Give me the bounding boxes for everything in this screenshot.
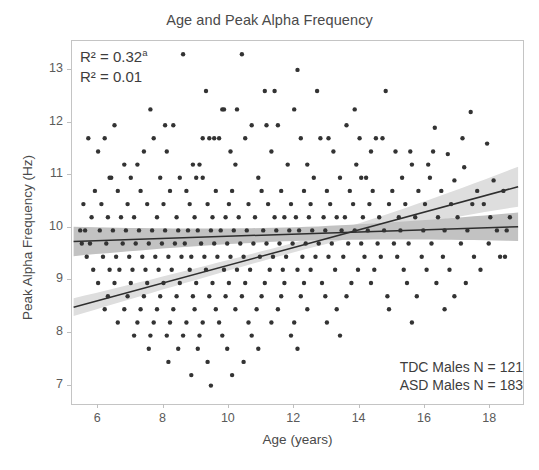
data-point xyxy=(325,189,329,193)
data-point xyxy=(469,110,473,114)
data-point xyxy=(127,255,131,259)
data-point xyxy=(282,281,286,285)
r2-tdc-text: R² = 0.32 xyxy=(80,48,142,65)
data-point xyxy=(215,255,219,259)
data-point xyxy=(158,176,162,180)
scatter-plot-svg xyxy=(72,41,523,404)
data-point xyxy=(335,307,339,311)
data-point xyxy=(152,136,156,140)
data-point xyxy=(269,320,273,324)
data-point xyxy=(156,268,160,272)
data-point xyxy=(243,136,247,140)
data-point xyxy=(259,189,263,193)
data-point xyxy=(205,360,209,364)
data-point xyxy=(153,255,157,259)
data-point xyxy=(420,255,424,259)
data-point xyxy=(305,307,309,311)
data-point xyxy=(148,107,152,111)
data-point xyxy=(286,162,290,166)
data-point xyxy=(402,268,406,272)
data-point xyxy=(184,189,188,193)
data-point xyxy=(271,255,275,259)
data-point xyxy=(295,68,299,72)
data-point xyxy=(86,136,90,140)
data-point xyxy=(279,294,283,298)
data-point xyxy=(442,307,446,311)
data-point xyxy=(408,149,412,153)
data-point xyxy=(132,333,136,337)
data-point xyxy=(475,189,479,193)
data-point xyxy=(204,268,208,272)
data-point xyxy=(498,255,502,259)
data-point xyxy=(197,162,201,166)
data-point xyxy=(138,189,142,193)
data-point xyxy=(487,241,491,245)
data-point xyxy=(323,294,327,298)
data-point xyxy=(274,228,278,232)
data-point xyxy=(505,228,509,232)
data-point xyxy=(107,268,111,272)
data-point xyxy=(403,202,407,206)
data-point xyxy=(482,202,486,206)
data-point xyxy=(189,373,193,377)
data-point xyxy=(503,255,507,259)
data-point xyxy=(464,281,468,285)
data-point xyxy=(138,307,142,311)
data-point xyxy=(491,178,495,182)
data-point xyxy=(98,228,102,232)
data-point xyxy=(96,149,100,153)
data-point xyxy=(323,228,327,232)
data-point xyxy=(173,241,177,245)
data-point xyxy=(101,255,105,259)
data-point xyxy=(142,149,146,153)
data-point xyxy=(103,136,107,140)
data-point xyxy=(351,202,355,206)
data-point xyxy=(305,162,309,166)
data-point xyxy=(410,162,414,166)
data-point xyxy=(147,241,151,245)
data-point xyxy=(143,268,147,272)
y-axis-label: Peak Alpha Frequency (Hz) xyxy=(20,155,35,320)
data-point xyxy=(121,241,125,245)
data-point xyxy=(80,241,84,245)
data-point xyxy=(369,149,373,153)
data-point xyxy=(250,333,254,337)
data-point xyxy=(276,123,280,127)
data-point xyxy=(210,281,214,285)
data-point xyxy=(165,333,169,337)
data-point xyxy=(382,228,386,232)
data-point xyxy=(362,255,366,259)
data-point xyxy=(294,215,298,219)
data-point xyxy=(250,123,254,127)
data-point xyxy=(384,89,388,93)
x-tick-label: 10 xyxy=(215,411,241,425)
x-axis-label: Age (years) xyxy=(71,432,524,447)
data-point xyxy=(447,268,451,272)
data-point xyxy=(89,215,93,219)
data-point xyxy=(310,228,314,232)
data-point xyxy=(163,228,167,232)
data-point xyxy=(410,320,414,324)
data-point xyxy=(346,241,350,245)
data-point xyxy=(145,281,149,285)
data-point xyxy=(225,241,229,245)
data-point xyxy=(81,202,85,206)
y-tick-label: 9 xyxy=(41,271,63,285)
data-point xyxy=(415,294,419,298)
data-point xyxy=(130,268,134,272)
data-point xyxy=(400,176,404,180)
y-tick-label: 7 xyxy=(41,377,63,391)
data-point xyxy=(397,215,401,219)
data-point xyxy=(272,89,276,93)
data-point xyxy=(377,215,381,219)
data-point xyxy=(501,189,505,193)
data-point xyxy=(268,268,272,272)
data-point xyxy=(103,307,107,311)
data-point xyxy=(163,123,167,127)
data-point xyxy=(364,176,368,180)
data-point xyxy=(446,152,450,156)
data-point xyxy=(253,215,257,219)
data-point xyxy=(406,241,410,245)
data-point xyxy=(137,228,141,232)
r2-tdc-annotation: R² = 0.32a xyxy=(80,47,147,67)
